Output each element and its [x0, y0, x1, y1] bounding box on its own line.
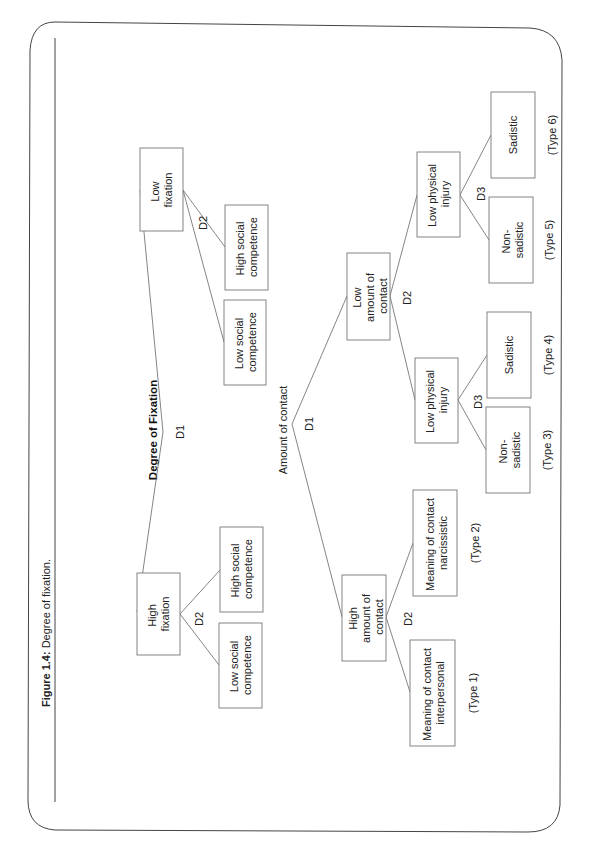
node-sadistic-type4: Sadistic — [487, 312, 531, 398]
node-low-physical-injury-b: Low physical injury — [415, 358, 458, 443]
svg-text:High fixation: High fixation — [146, 597, 171, 632]
tree2-d1-label: D1 — [303, 417, 315, 431]
figure-canvas: Figure 1.4: Degree of fixation. Degree o… — [0, 0, 590, 855]
type5-label: (Type 5) — [543, 220, 555, 260]
node-meaning-interpersonal: Meaning of contact interpersonal — [410, 640, 455, 746]
low-amount-d2-label: D2 — [401, 291, 413, 305]
node-high-fix-high-social: High social competence — [220, 527, 263, 612]
svg-text:Sadistic: Sadistic — [503, 335, 515, 374]
low-fixation-d2-label: D2 — [197, 216, 209, 230]
high-amount-d2-label: D2 — [402, 612, 414, 626]
caption-text: Degree of fixation. — [40, 559, 52, 651]
node-nonsadistic-type3: Non- sadistic — [486, 407, 530, 493]
lpi-a-d3-label: D3 — [475, 187, 487, 201]
type3-label: (Type 3) — [541, 430, 553, 470]
svg-text:Sadistic: Sadistic — [507, 115, 519, 154]
type2-label: (Type 2) — [469, 523, 481, 563]
high-fixation-d2-label: D2 — [193, 612, 205, 626]
node-high-fix-low-social: Low social competence — [219, 623, 262, 708]
svg-text:High social competence: High social competence — [234, 217, 259, 277]
node-high-fixation: High fixation — [137, 573, 180, 655]
type4-label: (Type 4) — [542, 335, 554, 375]
svg-text:High social competence: High social competence — [229, 539, 254, 599]
figure-caption: Figure 1.4: Degree of fixation. — [40, 559, 52, 707]
node-sadistic-type6: Sadistic — [491, 92, 535, 178]
lpi-b-d3-label: D3 — [472, 395, 484, 409]
node-low-fixation: Low fixation — [140, 148, 183, 231]
node-low-fix-high-social: High social competence — [225, 205, 268, 290]
type1-label: (Type 1) — [467, 673, 479, 713]
tree1-d1-label: D1 — [174, 425, 186, 439]
svg-text:Low social competence: Low social competence — [228, 635, 253, 695]
svg-text:Non- sadistic: Non- sadistic — [500, 221, 525, 258]
node-low-amount-of-contact: Low amount of contact — [347, 253, 390, 340]
svg-text:Non- sadistic: Non- sadistic — [497, 431, 522, 468]
node-meaning-narcissistic: Meaning of contact narcissistic — [413, 490, 457, 596]
node-nonsadistic-type5: Non- sadistic — [489, 197, 533, 283]
svg-text:Low social competence: Low social competence — [233, 312, 258, 372]
tree1-title: Degree of Fixation — [147, 380, 159, 480]
type6-label: (Type 6) — [546, 115, 558, 155]
node-high-amount-of-contact: High amount of contact — [342, 575, 386, 661]
node-low-physical-injury-a: Low physical injury — [417, 152, 460, 237]
tree2-title: Amount of contact — [277, 386, 289, 475]
caption-label: Figure 1.4: — [40, 651, 52, 707]
node-low-fix-low-social: Low social competence — [224, 300, 266, 385]
figure-frame — [28, 22, 562, 832]
